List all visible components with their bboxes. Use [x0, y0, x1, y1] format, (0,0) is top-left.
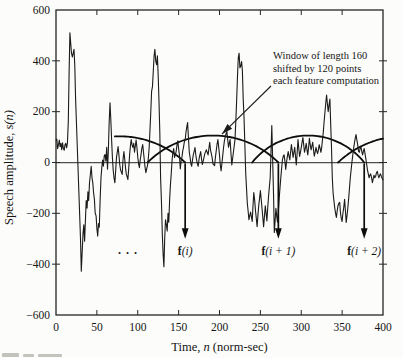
cropped-caption-fragment	[23, 354, 34, 357]
feature-arrowhead-icon	[275, 228, 282, 239]
y-tick-label: −400	[26, 258, 50, 270]
y-axis-label-math: s(n)	[2, 110, 16, 129]
x-tick-label: 350	[334, 321, 352, 333]
x-axis-label-text: Time,	[171, 340, 203, 354]
x-tick-label: 300	[293, 321, 311, 333]
x-tick-label: 150	[170, 321, 188, 333]
y-axis-label: Speech amplitude, s(n)	[2, 110, 17, 225]
x-tick-label: 250	[252, 321, 270, 333]
feature-vector-label: f(i + 2)	[347, 245, 381, 258]
y-tick-label: 400	[33, 55, 51, 67]
speech-windowing-figure: 0501001502002503003504006004002000−200−4…	[0, 0, 403, 358]
feature-vector-label: f(i)	[178, 245, 193, 258]
y-tick-label: 600	[33, 4, 51, 16]
x-axis-label: Time, n (norm-sec)	[56, 340, 383, 355]
x-axis-label-unit: (norm-sec)	[210, 340, 268, 354]
window-annotation-line-3: each feature computation	[273, 75, 379, 88]
y-axis-label-text: Speech amplitude,	[2, 130, 16, 225]
x-tick-label: 50	[91, 321, 103, 333]
x-tick-label: 200	[211, 321, 229, 333]
y-tick-label: −200	[26, 207, 50, 219]
x-tick-label: 0	[53, 321, 59, 333]
y-tick-label: −600	[26, 309, 50, 321]
window-annotation-line-2: shifted by 120 points	[273, 63, 379, 76]
window-annotation: Window of length 160 shifted by 120 poin…	[273, 50, 379, 88]
feature-vector-label: f(i + 1)	[261, 245, 295, 258]
continuation-ellipsis: . . .	[118, 243, 138, 258]
feature-arrowhead-icon	[361, 228, 368, 239]
y-tick-label: 0	[44, 156, 50, 168]
cropped-caption-fragment	[2, 353, 19, 357]
x-tick-label: 400	[374, 321, 392, 333]
window-annotation-line-1: Window of length 160	[273, 50, 379, 63]
feature-arrowhead-icon	[182, 228, 189, 239]
y-tick-label: 200	[33, 105, 51, 117]
x-tick-label: 100	[129, 321, 147, 333]
cropped-caption-fragment	[38, 354, 62, 357]
